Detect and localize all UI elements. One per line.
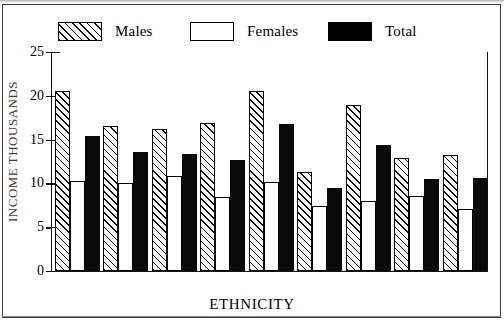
legend-item-males: Males bbox=[58, 18, 153, 44]
legend-item-females: Females bbox=[190, 18, 298, 44]
legend-label-males: Males bbox=[115, 23, 153, 40]
dotted-swatch-icon bbox=[190, 22, 234, 41]
figure-bottom-rule bbox=[2, 316, 501, 319]
y-label-clip-mask bbox=[7, 60, 504, 310]
solid-swatch-icon bbox=[328, 22, 372, 41]
scan-artifact-line bbox=[0, 0, 504, 2]
figure-page: Males Females Total INCOME THOUSANDS 252… bbox=[0, 0, 504, 321]
plot-top-tick-stub bbox=[51, 52, 60, 53]
x-axis-title: ETHNICITY bbox=[0, 296, 504, 313]
hatched-swatch-icon bbox=[58, 22, 102, 41]
chart-legend: Males Females Total bbox=[58, 18, 398, 44]
y-axis-tick-label: 25 bbox=[18, 45, 44, 59]
legend-label-total: Total bbox=[385, 23, 417, 40]
legend-label-females: Females bbox=[247, 23, 298, 40]
legend-item-total: Total bbox=[328, 18, 417, 44]
